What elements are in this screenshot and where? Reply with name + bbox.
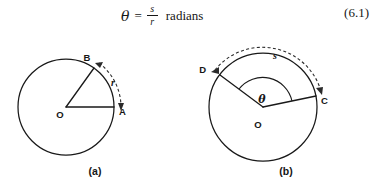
caption-b: (b) [190,165,382,177]
point-label-c: C [321,95,328,106]
figure-panel-a: B A O r (a) [0,34,190,178]
diagram-b: D C O θ s [190,34,382,164]
diagram-a: B A O r [0,34,190,164]
arc-label-r: r [111,77,115,88]
arrow-head-toward-d [211,67,219,74]
center-label-o-b: O [254,119,261,130]
fraction-numerator: s [148,4,156,15]
equation-number: (6.1) [344,5,369,21]
radius-line-ob [66,68,94,107]
arrow-head-toward-c [316,87,323,95]
equals-sign: = [134,9,141,22]
displayed-equation: θ = s r radians [121,4,203,27]
point-label-b: B [84,52,91,63]
point-label-a: A [119,106,126,117]
radius-line-od [220,75,263,107]
theta-symbol: θ [121,9,129,23]
caption-a: (a) [0,165,190,177]
figure-panel-b: D C O θ s (b) [190,34,382,178]
angle-label-theta: θ [258,93,266,106]
equation-unit-label: radians [166,9,204,22]
equation-row: θ = s r radians (6.1) [0,0,382,34]
arc-dashed-a [99,63,121,107]
figure-area: B A O r (a) D C O θ [0,34,382,178]
fraction-s-over-r: s r [147,4,158,27]
arrow-head-toward-b [95,62,103,68]
radius-line-oc [263,96,316,107]
center-label-o-a: O [56,109,63,120]
point-label-d: D [199,64,206,75]
arc-label-s: s [272,50,277,61]
fraction-denominator: r [148,16,156,27]
